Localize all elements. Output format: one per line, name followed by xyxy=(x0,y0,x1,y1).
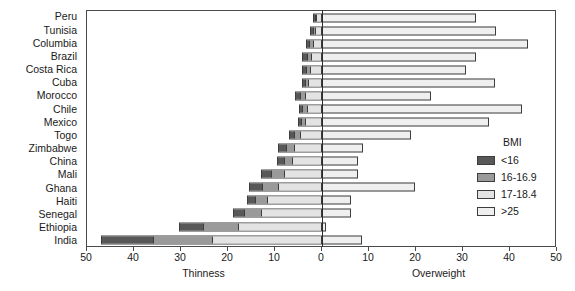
bar-segment xyxy=(315,27,321,34)
bar-segment xyxy=(153,236,211,243)
y-axis-country-labels: PeruTunisiaColumbiaBrazilCosta RicaCubaM… xyxy=(0,10,82,247)
chart-row xyxy=(87,102,555,115)
bar-segment xyxy=(102,236,153,243)
overweight-bar xyxy=(322,118,489,127)
zero-axis-line xyxy=(322,10,323,247)
thinness-bar xyxy=(233,209,322,218)
y-axis-label: Costa Rica xyxy=(0,63,82,76)
bar-segment xyxy=(212,236,321,243)
bar-segment xyxy=(271,171,284,178)
x-axis-tick-label: 20 xyxy=(409,252,421,263)
legend-item: 16-16.9 xyxy=(477,171,537,184)
y-axis-label: Brazil xyxy=(0,50,82,63)
overweight-bar xyxy=(322,104,522,113)
thinness-bar xyxy=(302,52,322,61)
x-axis-tick-label: 20 xyxy=(221,252,233,263)
legend-item: >25 xyxy=(477,205,519,218)
x-axis-tick-label: 40 xyxy=(127,252,139,263)
x-axis-tick-label: 40 xyxy=(503,252,515,263)
bar-segment xyxy=(313,40,321,47)
y-axis-label: Tunisia xyxy=(0,23,82,36)
y-axis-label: Peru xyxy=(0,10,82,23)
bar-segment xyxy=(305,119,321,126)
overweight-bar xyxy=(322,65,466,74)
legend-label: 16-16.9 xyxy=(501,172,537,183)
overweight-bar xyxy=(322,131,411,140)
chart-row xyxy=(87,37,555,50)
overweight-bar xyxy=(322,157,358,166)
bar-segment xyxy=(250,184,262,191)
overweight-bar xyxy=(322,183,415,192)
overweight-bar xyxy=(322,26,496,35)
bar-segment xyxy=(234,210,245,217)
x-axis-tick-label: 10 xyxy=(268,252,280,263)
overweight-bar xyxy=(322,144,363,153)
bar-segment xyxy=(238,223,321,230)
thinness-bar xyxy=(249,183,322,192)
bar-segment xyxy=(300,132,321,139)
x-axis-tick-label: 50 xyxy=(80,252,92,263)
thinness-bar xyxy=(313,13,322,22)
y-axis-label: Togo xyxy=(0,129,82,142)
thinness-bar xyxy=(302,65,322,74)
thinness-bar xyxy=(179,222,322,231)
x-axis-tick-label: 50 xyxy=(550,252,562,263)
legend-swatch xyxy=(477,156,495,165)
overweight-bar xyxy=(322,209,351,218)
bmi-diverging-bar-chart: PeruTunisiaColumbiaBrazilCosta RicaCubaM… xyxy=(0,0,575,291)
bar-segment xyxy=(278,184,321,191)
y-axis-label: Chile xyxy=(0,102,82,115)
legend-swatch xyxy=(477,173,495,182)
thinness-bar xyxy=(261,170,322,179)
bar-segment xyxy=(255,197,267,204)
legend-item: <16 xyxy=(477,154,519,167)
y-axis-label: Ghana xyxy=(0,181,82,194)
overweight-bar xyxy=(322,13,476,22)
thinness-bar xyxy=(289,131,322,140)
bar-segment xyxy=(308,79,321,86)
y-axis-label: Morocco xyxy=(0,89,82,102)
overweight-bar xyxy=(322,52,476,61)
bar-segment xyxy=(316,14,321,21)
overweight-bar xyxy=(322,91,431,100)
bar-segment xyxy=(286,145,295,152)
y-axis-label: Ethiopia xyxy=(0,221,82,234)
bar-segment xyxy=(262,184,278,191)
thinness-bar xyxy=(299,104,323,113)
bar-segment xyxy=(267,197,321,204)
x-axis-tick-label: 0 xyxy=(318,252,324,263)
thinness-bar xyxy=(295,91,322,100)
overweight-bar xyxy=(322,78,495,87)
legend-label: <16 xyxy=(501,155,519,166)
thinness-bar xyxy=(302,78,322,87)
y-axis-label: Zimbabwe xyxy=(0,142,82,155)
overweight-bar xyxy=(322,235,362,244)
x-axis: 504030201001020304050ThinnessOverweight xyxy=(86,247,556,287)
chart-row xyxy=(87,50,555,63)
bar-segment xyxy=(261,210,321,217)
y-axis-label: Mexico xyxy=(0,115,82,128)
legend-item: 17-18.4 xyxy=(477,188,537,201)
x-axis-tick-label: 10 xyxy=(362,252,374,263)
bar-segment xyxy=(305,92,321,99)
overweight-bar xyxy=(322,170,358,179)
legend-swatch xyxy=(477,207,495,216)
thinness-bar xyxy=(277,157,322,166)
thinness-bar xyxy=(278,144,322,153)
legend-label: >25 xyxy=(501,206,519,217)
bar-segment xyxy=(248,197,255,204)
bar-segment xyxy=(284,158,292,165)
legend: BMI <1616-16.917-18.4>25 xyxy=(477,137,572,237)
x-axis-title-right: Overweight xyxy=(412,268,465,279)
bar-segment xyxy=(294,145,321,152)
chart-row xyxy=(87,11,555,24)
bar-segment xyxy=(262,171,272,178)
thinness-bar xyxy=(298,118,322,127)
bar-segment xyxy=(310,66,321,73)
bar-segment xyxy=(244,210,261,217)
chart-row xyxy=(87,76,555,89)
legend-swatch xyxy=(477,190,495,199)
y-axis-label: China xyxy=(0,155,82,168)
bar-segment xyxy=(311,53,321,60)
y-axis-label: Cuba xyxy=(0,76,82,89)
